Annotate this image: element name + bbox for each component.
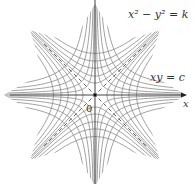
x-axis-arrowhead-icon xyxy=(181,93,187,98)
hyperbola-branch xyxy=(96,96,195,184)
hyperbola-branch xyxy=(0,96,94,184)
hyperbola-branch xyxy=(96,96,195,184)
origin-dot-icon xyxy=(94,94,97,97)
label-family-x2-y2: x² − y² = k xyxy=(128,8,189,21)
orthogonal-hyperbolas-diagram: x² − y² = k xy = c x 0 xyxy=(0,0,195,184)
hyperbola-branch xyxy=(0,95,95,184)
plot-canvas: x² − y² = k xy = c x 0 xyxy=(0,0,195,184)
hyperbola-branch xyxy=(0,96,94,184)
hyperbola-branch xyxy=(137,0,195,184)
hyperbola-branch xyxy=(96,96,195,184)
label-x-axis: x xyxy=(183,98,189,109)
hyperbola-branch xyxy=(0,96,94,184)
label-origin: 0 xyxy=(86,103,92,114)
hyperbola-branch xyxy=(0,96,94,184)
hyperbola-curves xyxy=(0,0,195,184)
label-family-xy: xy = c xyxy=(150,71,185,84)
